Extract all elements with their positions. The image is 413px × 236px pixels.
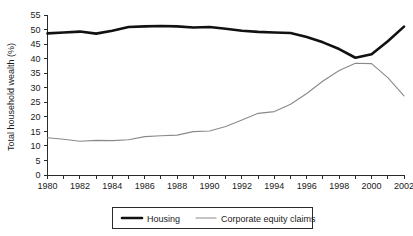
y-tick-label: 55 bbox=[30, 10, 40, 20]
y-tick-label: 40 bbox=[30, 54, 40, 64]
y-axis-title-label: Total household wealth (%) bbox=[6, 43, 16, 151]
chart-legend: Housing Corporate equity claims bbox=[113, 208, 317, 229]
x-tick-label: 1988 bbox=[167, 181, 187, 191]
y-tick-label: 0 bbox=[35, 170, 40, 180]
y-axis-ticks: 0510152025303540455055 bbox=[30, 10, 47, 180]
x-tick-label: 1998 bbox=[329, 181, 349, 191]
line-chart: Total household wealth (%) 0510152025303… bbox=[0, 0, 413, 236]
y-tick-label: 25 bbox=[30, 97, 40, 107]
x-tick-label: 1984 bbox=[102, 181, 122, 191]
y-tick-label: 45 bbox=[30, 39, 40, 49]
y-tick-label: 5 bbox=[35, 156, 40, 166]
series-line-housing bbox=[48, 26, 405, 58]
chart-container: Total household wealth (%) 0510152025303… bbox=[0, 0, 413, 236]
x-tick-label: 2002 bbox=[394, 181, 413, 191]
y-tick-label: 30 bbox=[30, 83, 40, 93]
y-tick-label: 10 bbox=[30, 141, 40, 151]
legend-label-housing: Housing bbox=[147, 214, 180, 224]
x-tick-label: 1996 bbox=[297, 181, 317, 191]
x-tick-label: 1980 bbox=[37, 181, 57, 191]
x-tick-label: 1994 bbox=[264, 181, 284, 191]
x-tick-label: 2000 bbox=[362, 181, 382, 191]
y-axis-title: Total household wealth (%) bbox=[6, 43, 16, 151]
series-line-corporate-equity-claims bbox=[48, 63, 405, 141]
x-tick-label: 1986 bbox=[135, 181, 155, 191]
x-tick-label: 1990 bbox=[200, 181, 220, 191]
legend-label-corporate-equity-claims: Corporate equity claims bbox=[221, 214, 316, 224]
y-tick-label: 50 bbox=[30, 25, 40, 35]
x-tick-label: 1982 bbox=[70, 181, 90, 191]
y-tick-label: 20 bbox=[30, 112, 40, 122]
x-axis-ticks: 1980198219841986198819901992199419961998… bbox=[37, 175, 413, 191]
y-tick-label: 15 bbox=[30, 127, 40, 137]
y-tick-label: 35 bbox=[30, 68, 40, 78]
x-tick-label: 1992 bbox=[232, 181, 252, 191]
